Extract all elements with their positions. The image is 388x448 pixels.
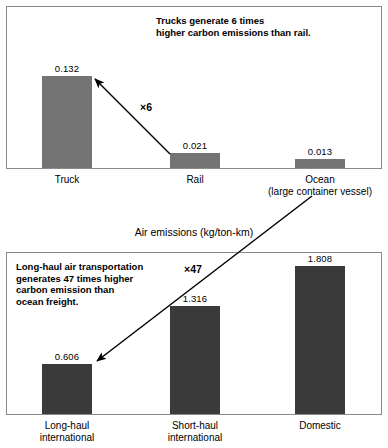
callout-trucks-vs-rail-line2: higher carbon emissions than rail. — [156, 27, 311, 39]
callout-air-vs-ocean-line4: ocean freight. — [16, 296, 196, 308]
bar-long-haul-international — [42, 364, 92, 414]
multiplier-label-x47: ×47 — [184, 263, 202, 275]
category-label-domestic-line1: Domestic — [270, 420, 370, 432]
category-label-rail-line1: Rail — [145, 174, 245, 186]
value-label-rail: 0.021 — [170, 140, 220, 151]
category-label-rail: Rail — [145, 174, 245, 186]
bar-short-haul-international — [170, 306, 220, 414]
bar-domestic — [295, 266, 345, 414]
category-label-ocean-line2: (large container vessel) — [250, 186, 388, 198]
value-label-ocean: 0.013 — [295, 146, 345, 157]
bar-ocean — [295, 159, 345, 168]
freight-emissions-figure: 0.132 0.021 0.013 Truck Rail Ocean (larg… — [0, 0, 388, 448]
category-label-short-haul-line1: Short-haul — [145, 420, 245, 432]
callout-trucks-vs-rail: Trucks generate 6 times higher carbon em… — [156, 15, 311, 38]
category-label-long-haul-line2: international — [17, 432, 117, 444]
category-label-truck-line1: Truck — [17, 174, 117, 186]
axis-title-air-emissions: Air emissions (kg/ton-km) — [0, 226, 388, 238]
category-label-short-haul-line2: international — [145, 432, 245, 444]
category-label-short-haul-international: Short-haul international — [145, 420, 245, 444]
category-label-truck: Truck — [17, 174, 117, 186]
category-label-ocean-line1: Ocean — [250, 174, 388, 186]
multiplier-label-x6: ×6 — [140, 101, 152, 113]
category-label-long-haul-international: Long-haul international — [17, 420, 117, 444]
value-label-domestic: 1.808 — [295, 253, 345, 264]
callout-air-vs-ocean-line1: Long-haul air transportation — [16, 261, 196, 273]
category-label-long-haul-line1: Long-haul — [17, 420, 117, 432]
category-label-ocean: Ocean (large container vessel) — [250, 174, 388, 198]
value-label-truck: 0.132 — [42, 63, 92, 74]
category-label-domestic: Domestic — [270, 420, 370, 432]
callout-air-vs-ocean: Long-haul air transportation generates 4… — [16, 261, 196, 307]
value-label-long-haul-international: 0.606 — [42, 351, 92, 362]
callout-trucks-vs-rail-line1: Trucks generate 6 times — [156, 15, 311, 27]
callout-air-vs-ocean-line2: generates 47 times higher — [16, 273, 196, 285]
bar-rail — [170, 153, 220, 168]
callout-air-vs-ocean-line3: carbon emission than — [16, 284, 196, 296]
bar-truck — [42, 76, 92, 168]
